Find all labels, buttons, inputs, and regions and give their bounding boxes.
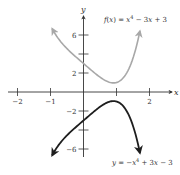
y-tick-label: −6	[66, 146, 77, 154]
ticks: −2−1262−2−6	[12, 32, 151, 154]
x-axis-label: x	[174, 88, 179, 97]
upper-curve	[52, 29, 140, 83]
y-axis-label: y	[80, 5, 86, 14]
x-tick-label: −2	[12, 98, 22, 106]
y-tick-label: −2	[66, 108, 76, 116]
axes	[8, 16, 172, 157]
lower-equation-label: y = −x4 + 3x − 3	[111, 157, 173, 167]
function-graph: −2−1262−2−6 x y f(x) = x4 − 3x + 3 y = −…	[0, 0, 180, 175]
y-tick-label: 6	[72, 32, 77, 40]
x-tick-label: −1	[45, 98, 55, 106]
x-tick-label: 2	[147, 98, 151, 106]
y-tick-label: 2	[72, 70, 76, 78]
upper-equation-label: f(x) = x4 − 3x + 3	[103, 14, 167, 24]
